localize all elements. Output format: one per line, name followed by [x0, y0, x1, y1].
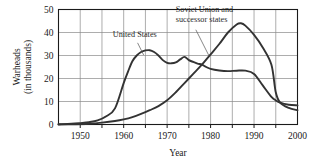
x-tick-label: 1990 [245, 131, 264, 141]
y-tick-label: 10 [44, 97, 54, 107]
y-tick-label: 0 [49, 120, 54, 130]
y-axis-title-line1: Warheads [12, 48, 22, 86]
us-label: United States [113, 30, 157, 39]
chart-svg: 01020304050 195019601970198019902000 Uni… [0, 0, 316, 158]
y-tick-label: 20 [44, 74, 54, 84]
warheads-line-chart: 01020304050 195019601970198019902000 Uni… [0, 0, 316, 158]
ussr-label-line1: Soviet Union and [176, 5, 233, 14]
y-axis-title-line2: (in thousands) [23, 40, 34, 94]
ussr-label-line2: successor states [176, 15, 228, 24]
x-axis-title: Year [169, 148, 187, 158]
y-tick-label: 40 [44, 28, 54, 38]
x-tick-label: 1980 [201, 131, 220, 141]
x-tick-label: 1970 [158, 131, 177, 141]
x-tick-label: 2000 [288, 131, 307, 141]
y-tick-label: 30 [44, 51, 54, 61]
y-tick-label: 50 [44, 5, 54, 15]
x-tick-label: 1950 [71, 131, 90, 141]
x-tick-label: 1960 [114, 131, 133, 141]
